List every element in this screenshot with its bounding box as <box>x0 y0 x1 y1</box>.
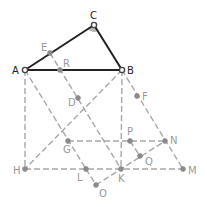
label-a: A <box>12 65 19 76</box>
point-f <box>135 94 140 99</box>
point-o <box>94 183 99 188</box>
segment-bm <box>122 70 183 169</box>
label-h: H <box>13 165 21 176</box>
point-p <box>128 139 133 144</box>
label-f: F <box>142 91 148 102</box>
label-p: P <box>127 126 133 137</box>
point-q <box>138 154 143 159</box>
label-e: E <box>41 42 47 53</box>
label-b: B <box>127 65 134 76</box>
geometry-diagram: ABCERDFGPNQHLKMO <box>0 0 207 207</box>
point-k <box>119 167 124 172</box>
label-d: D <box>68 97 76 108</box>
side-ca <box>25 25 94 70</box>
label-n: N <box>170 135 177 146</box>
segment-al <box>25 70 86 169</box>
triangle-abc <box>25 25 122 70</box>
point-n <box>163 139 168 144</box>
label-c: C <box>90 10 97 21</box>
side-bc <box>94 25 122 70</box>
point-b <box>119 67 124 72</box>
label-m: M <box>188 165 197 176</box>
point-r <box>58 68 63 73</box>
point-a <box>22 67 27 72</box>
point-m <box>181 167 186 172</box>
label-r: R <box>63 58 70 69</box>
segment-bh <box>25 70 122 169</box>
point-d <box>76 96 81 101</box>
point-h <box>23 167 28 172</box>
label-g: G <box>63 144 71 155</box>
segment-on <box>96 141 165 185</box>
dashed-construction-lines <box>25 53 183 185</box>
point-g <box>66 139 71 144</box>
point-e <box>48 51 53 56</box>
segment-lo <box>86 169 96 185</box>
segment-bk <box>121 70 122 169</box>
label-q: Q <box>145 156 153 167</box>
point-labels: ABCERDFGPNQHLKMO <box>12 10 197 199</box>
label-k: K <box>118 173 125 184</box>
point-c <box>91 22 96 27</box>
point-l <box>84 167 89 172</box>
label-o: O <box>99 188 107 199</box>
label-l: L <box>77 172 83 183</box>
